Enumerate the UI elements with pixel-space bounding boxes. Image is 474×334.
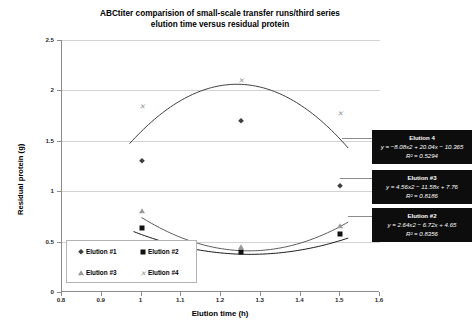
x-axis-tick-mark [260,292,261,296]
cross-marker-icon: ✕ [138,268,148,278]
y-axis-title: Residual protein (g) [16,144,25,215]
diamond-marker-icon [76,247,86,257]
callout-leader-1 [342,138,372,139]
chart-container: ABCtiter comparision of small-scale tran… [0,0,474,334]
triangle-marker-icon [76,268,86,278]
x-axis-tick-label: 1.2 [205,296,235,303]
callout-equation-elution-2: y = 2.64x2 − 6.72x + 4.65 [376,220,468,229]
legend-label-elution-4: Elution #4 [148,269,179,276]
x-axis-tick-label: 1 [126,296,156,303]
x-axis-tick-mark [61,292,62,296]
x-axis-tick-mark [101,292,102,296]
data-point-elution-4: ✕ [237,77,244,84]
data-point-elution-2 [238,249,243,254]
callout-elution-4: Elution 4 y = −8.08x2 + 20.04x − 10.365 … [372,130,472,164]
legend-label-elution-1: Elution #1 [86,248,117,255]
data-point-elution-4: ✕ [337,109,344,116]
data-point-elution-2 [139,226,144,231]
chart-title-line-1: ABCtiter comparision of small-scale tran… [60,8,380,19]
callout-equation-elution-4: y = −8.08x2 + 20.04x − 10.365 [376,142,468,151]
series-legend: Elution #1 Elution #2 Elution #3 ✕ Eluti… [66,240,197,283]
data-point-elution-3 [139,209,145,214]
x-axis-tick-mark [300,292,301,296]
callout-leader-2 [340,178,372,179]
x-axis-tick-mark [180,292,181,296]
x-axis-tick-label: 1.6 [364,296,394,303]
x-axis-tick-label: 0.9 [86,296,116,303]
callout-elution-3: Elution #3 y = 4.56x2 − 11.58x + 7.76 R²… [372,170,472,204]
callout-title-elution-3: Elution #3 [376,173,468,182]
x-axis-tick-label: 1.4 [285,296,315,303]
y-axis-tick-label: 0 [28,288,54,295]
data-point-elution-3 [238,244,244,249]
trendline-elution-4 [130,84,349,148]
y-axis-tick-label: 2.5 [28,36,54,43]
callout-title-elution-2: Elution #2 [376,211,468,220]
legend-item-elution-4[interactable]: ✕ Elution #4 [138,262,179,283]
callout-r2-elution-2: R² = 0.8356 [376,229,468,238]
callout-elution-2: Elution #2 y = 2.64x2 − 6.72x + 4.65 R² … [372,208,472,242]
legend-item-elution-3[interactable]: Elution #3 [76,262,117,283]
callout-r2-elution-3: R² = 0.8186 [376,191,468,200]
y-axis-tick-label: 1.5 [28,137,54,144]
chart-title: ABCtiter comparision of small-scale tran… [60,8,380,30]
y-axis-tick-label: 1 [28,187,54,194]
data-point-elution-2 [338,231,343,236]
chart-title-line-2: elution time versus residual protein [60,19,380,30]
legend-label-elution-3: Elution #3 [86,269,117,276]
legend-label-elution-2: Elution #2 [148,248,179,255]
x-axis-title: Elution time (h) [61,309,379,318]
y-axis-tick-label: 2 [28,86,54,93]
legend-item-elution-2[interactable]: Elution #2 [138,241,179,262]
x-axis-tick-label: 1.1 [165,296,195,303]
callout-r2-elution-4: R² = 0.5294 [376,151,468,160]
callout-equation-elution-3: y = 4.56x2 − 11.58x + 7.76 [376,182,468,191]
data-point-elution-3 [337,224,343,229]
x-axis-tick-label: 0.8 [46,296,76,303]
legend-item-elution-1[interactable]: Elution #1 [76,241,117,262]
x-axis-tick-label: 1.3 [245,296,275,303]
x-axis-tick-mark [220,292,221,296]
square-marker-icon [138,247,148,257]
x-axis-tick-mark [339,292,340,296]
x-axis-tick-mark [141,292,142,296]
x-axis-tick-label: 1.5 [324,296,354,303]
callout-title-elution-4: Elution 4 [376,133,468,142]
data-point-elution-4: ✕ [138,102,145,109]
y-axis-tick-label: 0.5 [28,238,54,245]
callout-leader-3 [348,216,372,217]
x-axis-tick-mark [379,292,380,296]
